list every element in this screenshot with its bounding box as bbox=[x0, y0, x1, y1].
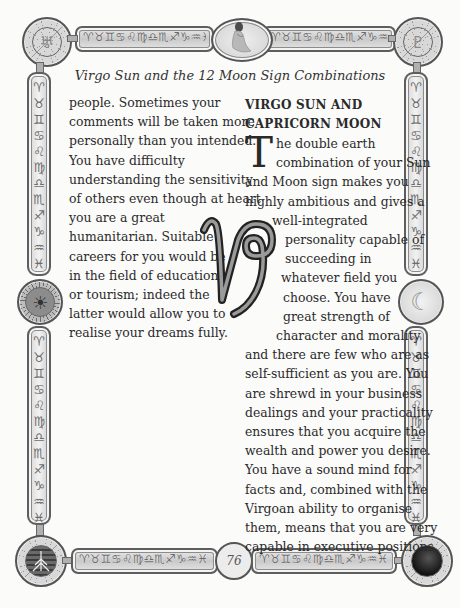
text-line: capable in executive positions. bbox=[245, 537, 405, 556]
text-line: and there are few who are as bbox=[245, 345, 405, 364]
text-line: well-integrated bbox=[245, 211, 405, 230]
connector bbox=[67, 35, 78, 42]
text-line: You have a sound mind for bbox=[245, 460, 405, 479]
bottom-left-zodiac-bar: ♈♉♊♋♌♍♎♏♐♑♒♓ bbox=[71, 548, 218, 574]
virgo-maiden-medallion bbox=[211, 18, 273, 62]
drop-cap: T bbox=[245, 136, 273, 170]
pluto-icon: ♇ bbox=[403, 27, 433, 57]
text-line: choose. You have bbox=[245, 288, 405, 307]
top-left-zodiac-bar: ♈♉♊♋♌♍♎♏♐♑♒♓ bbox=[75, 26, 214, 52]
top-right-medallion: ♇ bbox=[393, 17, 443, 67]
section-heading: CAPRICORN MOON bbox=[245, 115, 405, 134]
text-line: self-sufficient as you are. You bbox=[245, 364, 405, 383]
text-line: and Moon sign makes you bbox=[245, 172, 405, 191]
text-line: character and morality bbox=[245, 326, 405, 345]
text-line: comments will be taken more bbox=[69, 112, 229, 131]
zodiac-glyphs: ♈♉♊♋♌♍♎♏♐♑♒♓ bbox=[29, 80, 49, 272]
zodiac-glyphs: ♈♉♊♋♌♍♎♏♐♑♒♓ bbox=[79, 552, 210, 566]
text-line: understanding the sensitivity bbox=[69, 170, 229, 189]
top-left-medallion: ♅ bbox=[22, 17, 72, 67]
tree-roots-icon bbox=[25, 545, 57, 577]
text-line: of others even though at heart bbox=[69, 189, 229, 208]
bottom-left-medallion bbox=[15, 535, 67, 587]
text-line: dealings and your practicality bbox=[245, 403, 405, 422]
text-line: personally than you intended. bbox=[69, 131, 229, 150]
virgo-maiden-icon bbox=[211, 18, 269, 58]
tree-icon bbox=[29, 549, 53, 573]
right-column: VIRGO SUN AND CAPRICORN MOON T he double… bbox=[245, 96, 405, 556]
zodiac-glyphs: ♈♉♊♋♌♍♎♏♐♑♒♓ bbox=[29, 334, 49, 525]
left-lower-zodiac-bar: ♈♉♊♋♌♍♎♏♐♑♒♓ bbox=[27, 326, 51, 525]
left-upper-zodiac-bar: ♈♉♊♋♌♍♎♏♐♑♒♓ bbox=[27, 72, 51, 276]
section-heading: VIRGO SUN AND bbox=[245, 96, 405, 115]
text-line: facts and, combined with the bbox=[245, 480, 405, 499]
text-line: realise your dreams fully. bbox=[69, 323, 229, 342]
text-line: great strength of bbox=[245, 307, 405, 326]
text-line: ensures that you acquire the bbox=[245, 422, 405, 441]
sun-medallion: ☀ bbox=[17, 279, 63, 325]
text-line: wealth and power you desire. bbox=[245, 441, 405, 460]
text-line: Virgoan ability to organise bbox=[245, 499, 405, 518]
text-line: people. Sometimes your bbox=[69, 93, 229, 112]
connector bbox=[388, 35, 396, 42]
top-right-zodiac-bar: ♈♉♊♋♌♍♎♏♐♑♒♓ bbox=[262, 26, 396, 52]
text-line: personality capable of bbox=[245, 230, 405, 249]
zodiac-glyphs: ♈♉♊♋♌♍♎♏♐♑♒♓ bbox=[270, 30, 388, 44]
zodiac-glyphs: ♈♉♊♋♌♍♎♏♐♑♒♓ bbox=[83, 30, 206, 44]
text-line: You have difficulty bbox=[69, 151, 229, 170]
text-line: them, means that you are very bbox=[245, 518, 405, 537]
text-line: are shrewd in your business bbox=[245, 384, 405, 403]
sun-face-icon: ☀ bbox=[25, 287, 55, 317]
page-subtitle: Virgo Sun and the 12 Moon Sign Combinati… bbox=[0, 68, 460, 83]
text-line: highly ambitious and gives a bbox=[245, 192, 405, 211]
uranus-icon: ♅ bbox=[32, 27, 62, 57]
crescent-moon-icon: ☾ bbox=[408, 289, 434, 315]
text-line: whatever field you bbox=[245, 268, 405, 287]
text-line: succeeding in bbox=[245, 249, 405, 268]
